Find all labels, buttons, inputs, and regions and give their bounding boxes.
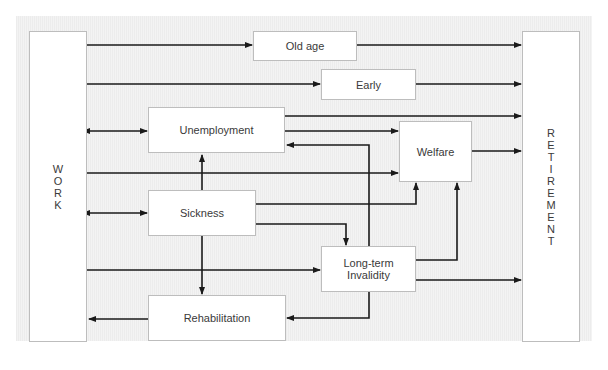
retirement-block: R E T I R E M E N T [522,31,580,342]
work-letter: W [53,163,63,175]
node-old-age: Old age [253,31,357,61]
node-long-term-invalidity: Long-term Invalidity [321,246,416,292]
retirement-letter: E [547,187,554,199]
work-letter: R [54,187,62,199]
node-unemployment: Unemployment [148,107,285,153]
node-sickness: Sickness [148,190,256,236]
node-lti-label-line1: Long-term [343,257,393,269]
node-rehabilitation-label: Rehabilitation [184,312,251,324]
node-rehabilitation: Rehabilitation [148,295,286,341]
retirement-letter: N [547,223,555,235]
retirement-letter: M [546,199,555,211]
node-old-age-label: Old age [286,40,325,52]
retirement-letter: E [547,211,554,223]
retirement-letter: T [548,235,555,247]
node-welfare-label: Welfare [417,146,455,158]
retirement-letter: I [549,163,552,175]
node-unemployment-label: Unemployment [180,124,254,136]
node-early: Early [321,69,416,100]
node-sickness-label: Sickness [180,207,224,219]
retirement-letter: T [548,151,555,163]
retirement-letter: E [547,139,554,151]
retirement-letter: R [547,127,555,139]
work-letter: K [54,199,61,211]
node-welfare: Welfare [399,121,472,182]
diagram-canvas: W O R K R E T I R E M E N T Old age Earl… [0,0,608,370]
retirement-letter: R [547,175,555,187]
work-letter: O [54,175,63,187]
node-lti-label-line2: Invalidity [347,269,390,281]
work-block: W O R K [29,31,87,342]
node-early-label: Early [356,79,381,91]
